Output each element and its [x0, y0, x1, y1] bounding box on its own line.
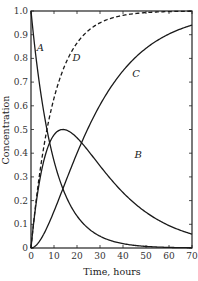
y-tick-label: 0.4 — [14, 148, 29, 158]
curve-label-a: A — [36, 42, 44, 53]
curve-label-b: B — [134, 149, 142, 160]
x-tick-label: 10 — [48, 251, 60, 261]
y-tick-label: 0.5 — [14, 125, 29, 135]
x-axis-label: Time, hours — [83, 266, 141, 277]
x-tick-label: 30 — [94, 251, 106, 261]
x-tick-label: 40 — [117, 251, 129, 261]
y-axis-label: Concentration — [0, 96, 11, 165]
y-tick-label: 1.0 — [14, 6, 29, 16]
curve-a — [31, 11, 192, 248]
y-tick-label: 0.2 — [14, 196, 28, 206]
y-tick-label: 0.3 — [14, 172, 29, 182]
curve-c — [31, 25, 192, 248]
y-tick-label: 0.6 — [14, 101, 29, 111]
y-tick-label: 0.7 — [14, 77, 29, 87]
curve-label-c: C — [132, 68, 140, 79]
y-tick-label: 0.1 — [14, 219, 28, 229]
y-tick-label: 0.8 — [14, 53, 29, 63]
x-tick-label: 60 — [163, 251, 175, 261]
plot-frame — [31, 11, 192, 248]
curve-d — [31, 11, 192, 248]
labels: ABCD — [36, 42, 142, 160]
concentration-chart: 01020304050607000.10.20.30.40.50.60.70.8… — [0, 0, 198, 281]
y-tick-label: 0.9 — [14, 30, 29, 40]
curves — [31, 11, 192, 248]
x-tick-label: 50 — [140, 251, 152, 261]
x-tick-label: 70 — [186, 251, 198, 261]
curve-b — [31, 130, 192, 248]
x-tick-label: 0 — [28, 251, 34, 261]
x-tick-label: 20 — [71, 251, 83, 261]
curve-label-d: D — [71, 52, 80, 63]
y-tick-label: 0 — [22, 243, 28, 253]
